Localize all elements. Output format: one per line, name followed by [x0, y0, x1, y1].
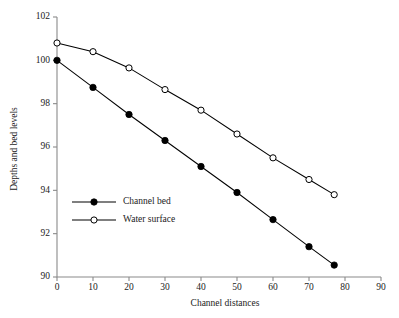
- legend-entry: Channel bed: [72, 196, 171, 206]
- legend-entry: Water surface: [72, 214, 175, 224]
- x-axis-tick-label: 70: [304, 282, 314, 292]
- x-axis-tick-label: 50: [232, 282, 242, 292]
- data-point: [198, 163, 204, 169]
- data-point: [162, 86, 168, 92]
- data-point: [234, 189, 240, 195]
- y-axis-tick-label: 92: [41, 228, 51, 238]
- y-axis-tick-label: 90: [41, 271, 51, 281]
- legend-marker: [91, 199, 97, 205]
- data-point: [331, 262, 337, 268]
- x-axis-tick-label: 30: [160, 282, 170, 292]
- y-axis-tick-label: 96: [41, 141, 51, 151]
- axes: 90929496981001020102030405060708090: [36, 11, 386, 292]
- x-axis-tick-label: 0: [55, 282, 60, 292]
- x-axis-tick-label: 10: [88, 282, 98, 292]
- line-chart: 90929496981001020102030405060708090 Chan…: [0, 0, 399, 318]
- data-point: [54, 40, 60, 46]
- data-point: [234, 131, 240, 137]
- series-path: [57, 60, 334, 265]
- data-point: [126, 65, 132, 71]
- data-point: [198, 107, 204, 113]
- legend-marker: [91, 217, 97, 223]
- x-axis-tick-label: 60: [268, 282, 278, 292]
- series-layer: [54, 40, 338, 268]
- y-axis-tick-label: 94: [41, 185, 51, 195]
- series-path: [57, 43, 334, 195]
- y-axis-tick-label: 100: [36, 55, 51, 65]
- legend-label: Channel bed: [123, 196, 171, 206]
- axis-lines: [57, 17, 381, 277]
- data-point: [331, 192, 337, 198]
- data-point: [54, 57, 60, 63]
- data-point: [90, 84, 96, 90]
- data-point: [126, 111, 132, 117]
- x-axis-tick-label: 20: [124, 282, 134, 292]
- y-axis-tick-label: 98: [41, 98, 51, 108]
- chart-container: 90929496981001020102030405060708090 Chan…: [0, 0, 399, 318]
- legend-label: Water surface: [123, 214, 175, 224]
- data-point: [162, 137, 168, 143]
- x-axis-tick-label: 40: [196, 282, 206, 292]
- data-point: [90, 49, 96, 55]
- chart-legend: Channel bedWater surface: [72, 196, 175, 224]
- series-water-surface: [54, 40, 337, 198]
- x-axis-tick-label: 90: [376, 282, 386, 292]
- series-channel-bed: [54, 57, 338, 268]
- y-axis-title: Depths and bed levels: [9, 107, 19, 191]
- data-point: [270, 216, 276, 222]
- y-axis-tick-label: 102: [36, 11, 51, 21]
- data-point: [306, 243, 312, 249]
- x-axis-tick-label: 80: [340, 282, 350, 292]
- x-axis-title: Channel distances: [191, 298, 260, 308]
- data-point: [270, 155, 276, 161]
- data-point: [306, 176, 312, 182]
